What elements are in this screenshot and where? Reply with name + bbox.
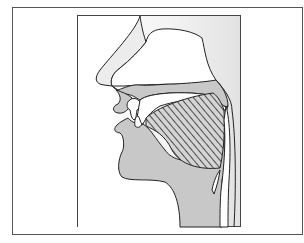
vocal-tract-diagram	[0, 0, 304, 243]
vocal-tract-figure	[0, 0, 304, 243]
